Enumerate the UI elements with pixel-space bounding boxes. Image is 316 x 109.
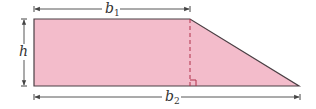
h-dimension: h [19, 19, 28, 86]
b1-label: b1 [105, 0, 120, 18]
b2-label: b2 [165, 88, 180, 106]
b1-dimension: b1 [34, 0, 190, 18]
b2-dimension: b2 [34, 88, 300, 106]
trapezoid-diagram: b1 h b2 [0, 0, 316, 109]
trapezoid-shape [34, 19, 299, 86]
h-label: h [19, 43, 28, 59]
